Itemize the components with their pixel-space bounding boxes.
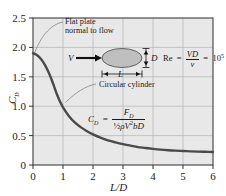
reynolds-lhs: Re (163, 53, 172, 63)
cd-numerator: FD (112, 108, 145, 120)
x-tick-label-0: 0 (26, 170, 40, 182)
flat-plate-annotation-line1: Flat plate (65, 17, 114, 26)
x-axis-ticks (33, 165, 213, 169)
y-tick-label-0: 0 (2, 159, 26, 171)
x-tick-label-1: 1 (56, 170, 70, 182)
reynolds-rhs: 10 (212, 53, 221, 63)
cd-lhs: CD (88, 114, 98, 124)
drag-coefficient-equation: CD = FD ½ρV2bD (88, 108, 145, 132)
diameter-label: D (151, 53, 158, 63)
cd-fraction: FD ½ρV2bD (112, 108, 145, 132)
length-label: L (118, 69, 123, 79)
x-axis-label: L/D (110, 181, 127, 193)
x-tick-label-6: 6 (206, 170, 220, 182)
reynolds-equals-1: = (175, 53, 184, 63)
reynolds-fraction: VD ν (186, 50, 199, 69)
elliptical-cylinder-body (102, 49, 142, 68)
flat-plate-annotation-line2: normal to flow (65, 26, 114, 35)
reynolds-rhs-exponent: 5 (221, 53, 224, 59)
flat-plate-annotation: Flat plate normal to flow (65, 17, 114, 35)
y-axis-label: CD (6, 100, 18, 118)
flow-velocity-label: V (68, 53, 74, 63)
y-tick-label-2.5: 2.5 (2, 12, 26, 24)
circular-cylinder-annotation: Circular cylinder (99, 80, 155, 89)
cd-denominator: ½ρV2bD (112, 120, 145, 131)
x-tick-label-4: 4 (146, 170, 160, 182)
x-tick-label-5: 5 (176, 170, 190, 182)
y-tick-label-2.0: 2.0 (2, 41, 26, 53)
reynolds-denominator: ν (186, 60, 199, 69)
reynolds-number-equation: Re = VD ν = 105 (163, 50, 224, 69)
x-tick-label-2: 2 (86, 170, 100, 182)
reynolds-equals-2: = (201, 53, 210, 63)
y-tick-label-1.5: 1.5 (2, 71, 26, 83)
y-tick-label-0.5: 0.5 (2, 130, 26, 142)
cd-equals: = (101, 114, 111, 124)
